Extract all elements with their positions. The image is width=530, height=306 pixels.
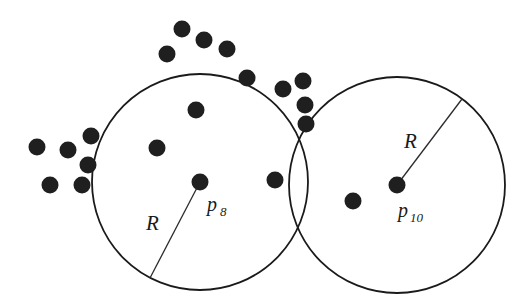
data-point-dot	[149, 140, 166, 157]
data-point-dot	[29, 139, 46, 156]
data-point-dot	[196, 32, 213, 49]
center-label-subscript-p10: 10	[410, 210, 424, 225]
data-point-dot	[188, 102, 205, 119]
data-point-dot	[298, 116, 315, 133]
data-point-dot	[174, 21, 191, 38]
data-point-dot	[275, 81, 292, 98]
data-point-dot	[345, 193, 362, 210]
data-point-dot	[159, 46, 176, 63]
data-point-dot	[74, 177, 91, 194]
data-point-dot	[295, 73, 312, 90]
figure-container: R R p 8 p 10	[0, 0, 530, 306]
data-point-dot	[239, 70, 256, 87]
radius-label-p8: R	[145, 211, 159, 235]
center-dot-p8	[192, 174, 209, 191]
data-point-dot	[83, 128, 100, 145]
circles-point-cluster-diagram: R R p 8 p 10	[0, 0, 530, 306]
data-point-dot	[297, 97, 314, 114]
radius-label-p10: R	[403, 129, 417, 153]
center-label-p8: p	[205, 193, 217, 216]
diagram-background	[0, 0, 530, 306]
data-point-dot	[80, 157, 97, 174]
center-label-p10: p	[396, 199, 408, 222]
point-group-inside-right-circle	[345, 193, 362, 210]
center-dot-p10	[389, 177, 406, 194]
data-point-dot	[267, 172, 284, 189]
data-point-dot	[219, 41, 236, 58]
data-point-dot	[42, 177, 59, 194]
data-point-dot	[60, 142, 77, 159]
center-label-subscript-p8: 8	[220, 204, 227, 219]
